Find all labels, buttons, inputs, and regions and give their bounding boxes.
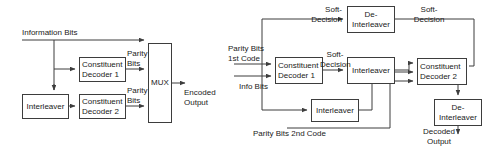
soft-decision-mid-line2: Decision bbox=[320, 60, 350, 70]
label-parity-bits-1st-code: Parity Bits 1st Code bbox=[228, 44, 264, 63]
decoder-interleaver-mid-box: Interleaver bbox=[347, 57, 395, 84]
decoder-decoder1-line2: Decoder 1 bbox=[276, 71, 322, 81]
decoder-decoder2-line1: Constituent bbox=[418, 62, 466, 72]
parity-bits-1st-code-line1: Parity Bits bbox=[228, 44, 264, 54]
soft-decision-top-left-line1: Soft- bbox=[262, 5, 342, 15]
parity-bits-2-line1: Parity bbox=[127, 86, 147, 96]
wire-interleaver-to-decoder2 bbox=[395, 63, 413, 70]
decoder-de-interleaver-top-box: De- Interleaver bbox=[347, 6, 395, 33]
label-parity-bits-2: Parity Bits bbox=[127, 86, 147, 105]
label-parity-bits-2nd-code: Parity Bits 2nd Code bbox=[253, 129, 326, 139]
label-encoded-output: Encoded Output bbox=[184, 88, 216, 107]
decoded-output-line1: Decoded bbox=[419, 127, 459, 137]
decoder-de-interleaver-bottom-box: De- Interleaver bbox=[434, 99, 482, 126]
de-interleaver-bottom-line1: De- bbox=[435, 103, 481, 113]
soft-decision-mid-line1: Soft- bbox=[320, 50, 350, 60]
turbo-codec-diagram: Interleaver Constituent Decoder 1 Consti… bbox=[0, 0, 497, 147]
label-soft-decision-top-right: Soft- Decision bbox=[400, 5, 458, 24]
decoder-interleaver-mid-label: Interleaver bbox=[348, 66, 394, 76]
label-soft-decision-mid: Soft- Decision bbox=[320, 50, 350, 69]
parity-bits-1-line1: Parity bbox=[127, 49, 147, 59]
de-interleaver-top-line1: De- bbox=[348, 10, 394, 20]
parity-bits-1st-code-line2: 1st Code bbox=[228, 54, 264, 64]
decoder-interleaver-bottom-box: Interleaver bbox=[311, 99, 359, 122]
de-interleaver-top-line2: Interleaver bbox=[348, 20, 394, 30]
soft-decision-top-right-line2: Decision bbox=[400, 15, 458, 25]
decoded-output-line2: Output bbox=[419, 137, 459, 147]
encoder-constituent-decoder-2-box: Constituent Decoder 2 bbox=[79, 94, 126, 119]
decoder-decoder2-line2: Decoder 2 bbox=[418, 72, 466, 82]
encoder-decoder2-label-line1: Constituent bbox=[80, 97, 125, 107]
decoder-decoder1-line1: Constituent bbox=[276, 61, 322, 71]
encoded-output-line1: Encoded bbox=[184, 88, 216, 98]
decoder-constituent-decoder-1-box: Constituent Decoder 1 bbox=[275, 57, 323, 84]
label-soft-decision-top-left: Soft- Decision bbox=[262, 5, 342, 24]
label-decoded-output: Decoded Output bbox=[419, 127, 459, 146]
de-interleaver-bottom-line2: Interleaver bbox=[435, 113, 481, 123]
parity-bits-1-line2: Bits bbox=[127, 59, 147, 69]
decoder-interleaver-bottom-label: Interleaver bbox=[312, 106, 358, 116]
soft-decision-top-left-line2: Decision bbox=[262, 15, 342, 25]
encoder-decoder1-label-line2: Decoder 1 bbox=[80, 70, 125, 80]
info-bits-text: Info Bits bbox=[239, 82, 268, 92]
label-info-bits: Info Bits bbox=[239, 82, 268, 92]
encoder-interleaver-box: Interleaver bbox=[22, 94, 69, 119]
encoder-mux-box: MUX bbox=[148, 43, 172, 123]
parity-bits-2-line2: Bits bbox=[127, 96, 147, 106]
parity-bits-2nd-code-text: Parity Bits 2nd Code bbox=[253, 129, 326, 139]
encoder-decoder2-label-line2: Decoder 2 bbox=[80, 107, 125, 117]
label-information-bits: Information Bits bbox=[22, 28, 78, 38]
label-parity-bits-1: Parity Bits bbox=[127, 49, 147, 68]
soft-decision-top-right-line1: Soft- bbox=[400, 5, 458, 15]
encoded-output-line2: Output bbox=[184, 98, 216, 108]
encoder-interleaver-label: Interleaver bbox=[23, 102, 68, 112]
decoder-constituent-decoder-2-box: Constituent Decoder 2 bbox=[417, 58, 467, 85]
encoder-decoder1-label-line1: Constituent bbox=[80, 60, 125, 70]
encoder-mux-label: MUX bbox=[149, 78, 171, 88]
encoder-constituent-decoder-1-box: Constituent Decoder 1 bbox=[79, 57, 126, 82]
information-bits-text: Information Bits bbox=[22, 28, 78, 38]
